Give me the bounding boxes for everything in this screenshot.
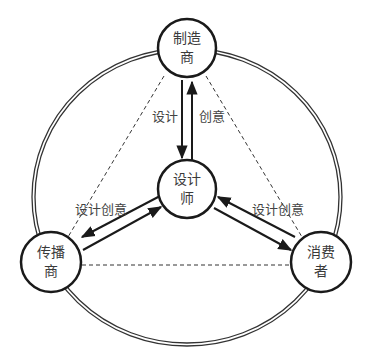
diagram-canvas: 制造 商 设计 师 传播 商 消费 者 设计 创意 设计创意 设计创意 <box>0 0 372 363</box>
edge-label-right-design-idea: 设计创意 <box>252 200 304 219</box>
node-distributor-line2: 商 <box>29 262 73 281</box>
node-manufacturer-line1: 制造 <box>165 29 209 48</box>
node-designer-line2: 师 <box>165 189 209 208</box>
node-manufacturer-line2: 商 <box>165 48 209 67</box>
node-consumer-line1: 消费 <box>299 243 343 262</box>
manufacturer-designer-arrows <box>182 80 192 160</box>
node-distributor: 传播 商 <box>29 243 73 281</box>
edge-label-left-design-idea: 设计创意 <box>75 200 127 219</box>
edge-label-idea: 创意 <box>199 107 225 126</box>
node-consumer: 消费 者 <box>299 243 343 281</box>
node-designer: 设计 师 <box>165 170 209 208</box>
node-distributor-line1: 传播 <box>29 243 73 262</box>
node-consumer-line2: 者 <box>299 262 343 281</box>
node-manufacturer: 制造 商 <box>165 29 209 67</box>
node-designer-line1: 设计 <box>165 170 209 189</box>
edge-label-design: 设计 <box>152 107 178 126</box>
